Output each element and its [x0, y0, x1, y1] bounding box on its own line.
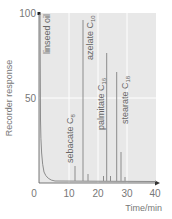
- label-palmitate: palmitate C16: [96, 77, 107, 130]
- y-tick-100: 100: [19, 8, 36, 19]
- x-tick-30: 30: [121, 188, 133, 199]
- x-tick-labels: 0 10 20 30 40: [31, 188, 161, 199]
- y-tick-50: 50: [25, 93, 37, 104]
- label-linseed-oil: linseed oil: [42, 14, 52, 54]
- y-tick-labels: 100 50: [19, 8, 36, 104]
- x-axis-title: Time/min: [125, 203, 162, 213]
- x-tick-40: 40: [149, 188, 161, 199]
- chromatogram-chart: linseed oil sebacate C8 azelate C10 palm…: [0, 0, 172, 219]
- x-tick-10: 10: [63, 188, 75, 199]
- y-axis-title: Recorder response: [4, 60, 14, 137]
- label-sebacate: sebacate C8: [65, 113, 76, 163]
- x-tick-20: 20: [92, 188, 104, 199]
- x-tick-0: 0: [31, 188, 37, 199]
